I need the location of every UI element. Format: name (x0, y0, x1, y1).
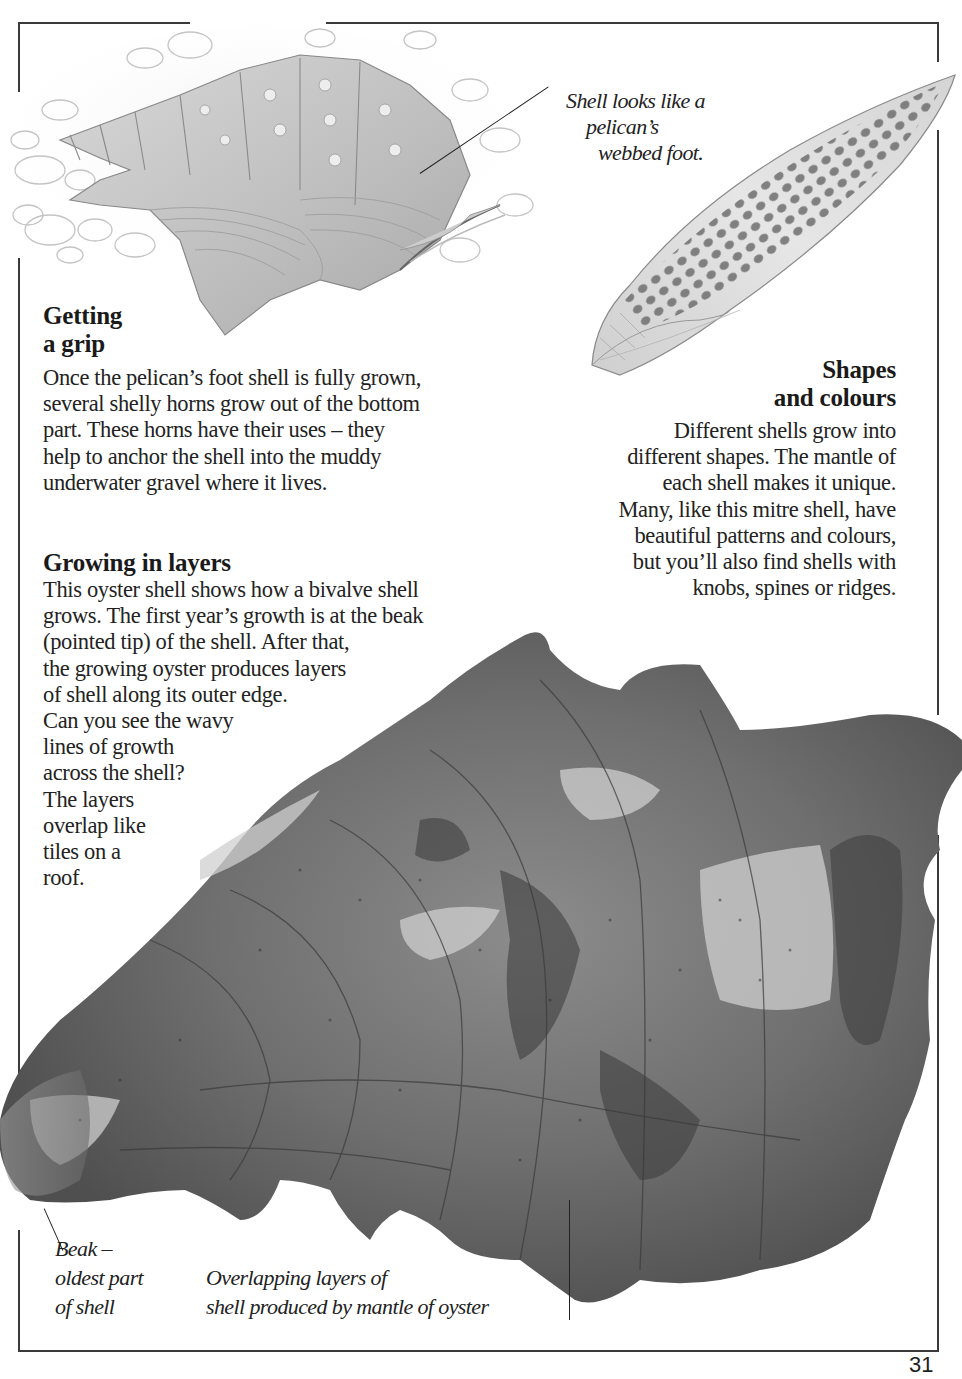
pelican-foot-shell-illustration (0, 0, 600, 340)
heading-shapes-and-colours: Shapes and colours (774, 356, 896, 412)
heading-getting-a-grip: Getting a grip (43, 302, 122, 358)
body-getting-a-grip: Once the pelican’s foot shell is fully g… (43, 365, 421, 496)
frame-bottom (18, 1350, 939, 1352)
body-shapes-and-colours: Different shells grow into different sha… (618, 418, 896, 601)
overlapping-layers-caption: Overlapping layers of shell produced by … (206, 1265, 488, 1320)
page-number: 31 (909, 1352, 933, 1378)
body-growing-in-layers: This oyster shell shows how a bivalve sh… (43, 577, 423, 891)
overlapping-layers-leader-line (569, 1200, 570, 1320)
heading-growing-in-layers: Growing in layers (43, 549, 231, 577)
mitre-shell-illustration (580, 70, 960, 380)
beak-caption: Beak – oldest part of shell (55, 1236, 143, 1320)
frame-right-1 (937, 22, 939, 62)
